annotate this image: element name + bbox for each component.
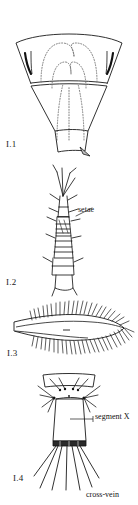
figure-i1 — [16, 34, 122, 156]
i4-lateral-setae — [38, 378, 100, 412]
i1-right-margin — [107, 43, 122, 84]
i1-terminal-left-edge — [55, 131, 58, 152]
i4-terminal-band — [53, 441, 86, 446]
figure-label-i2: I.2 — [6, 277, 16, 287]
i1-stripe-right-inner — [106, 51, 107, 74]
figure-label-i3: I.3 — [7, 348, 17, 358]
i1-left-lower-margin — [31, 86, 55, 131]
i1-transverse-suture-upper — [31, 81, 107, 83]
annotation-setae: setae — [78, 205, 94, 214]
i1-transverse-suture-lower — [31, 84, 107, 86]
i1-terminal-lower-edge — [58, 150, 85, 152]
i1-stripe-left-inner — [31, 51, 32, 74]
i1-right-lower-margin — [88, 86, 107, 131]
annotation-segment-x: segment X — [95, 412, 129, 421]
figure-label-i1: I.1 — [6, 139, 16, 149]
figure-i3 — [14, 301, 134, 354]
figure-i4 — [34, 374, 100, 491]
i1-anterior-margin — [16, 34, 122, 43]
i4-caudal-setae — [34, 446, 99, 490]
i4-segment-x-body — [53, 399, 86, 441]
i1-terminal-upper-edge — [55, 130, 88, 132]
figure-label-i4: I.4 — [13, 473, 23, 483]
i1-left-margin — [16, 43, 31, 84]
figure-i2 — [43, 165, 92, 296]
figure-plate — [0, 0, 138, 505]
i1-terminal-right-edge — [85, 131, 88, 151]
i1-dotted-pattern — [41, 43, 97, 140]
annotation-cross-vein: cross-vein — [86, 490, 119, 499]
